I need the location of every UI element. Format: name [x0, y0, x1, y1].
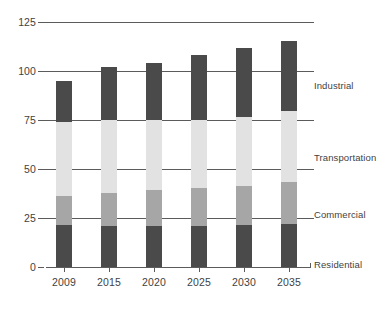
legend-label-industrial: Industrial	[314, 80, 354, 91]
y-tick-dash-75	[38, 120, 46, 121]
x-tick-2015	[109, 268, 110, 272]
bar-segment-residential	[281, 224, 297, 267]
bar-segment-industrial	[281, 41, 297, 111]
y-tick-dash-125	[38, 22, 46, 23]
bar-segment-transportation	[281, 111, 297, 182]
x-tick-2025	[199, 268, 200, 272]
gridline-75	[46, 120, 314, 121]
legend-label-transportation: Transportation	[314, 152, 376, 163]
legend-label-residential: Residential	[314, 259, 362, 270]
gridline-50	[46, 169, 314, 170]
y-tick-label-0: 0	[30, 262, 36, 272]
y-axis: 125 100 75 50 25 0	[0, 0, 36, 316]
bar-segment-industrial	[236, 48, 252, 117]
bar-segment-industrial	[56, 81, 72, 122]
bar-segment-residential	[56, 225, 72, 267]
gridline-125	[46, 22, 314, 23]
x-tick-2035	[289, 268, 290, 272]
bar-segment-industrial	[101, 67, 117, 120]
bar-segment-transportation	[191, 120, 207, 188]
stacked-bar-chart: 125 100 75 50 25 0	[0, 0, 390, 316]
x-axis-line	[46, 267, 311, 268]
bar-segment-transportation	[236, 117, 252, 186]
x-axis-label-2009: 2009	[42, 276, 86, 288]
bar-segment-commercial	[281, 182, 297, 224]
x-tick-2009	[64, 268, 65, 272]
y-tick-label-125: 125	[18, 17, 36, 27]
bar-segment-residential	[101, 226, 117, 267]
bar-segment-commercial	[236, 186, 252, 225]
gridline-25	[46, 218, 314, 219]
x-axis-label-2015: 2015	[87, 276, 131, 288]
y-tick-dash-50	[38, 169, 46, 170]
x-tick-2030	[244, 268, 245, 272]
x-axis-label-2020: 2020	[132, 276, 176, 288]
bar-segment-commercial	[146, 190, 162, 226]
bar-segment-transportation	[56, 122, 72, 196]
x-axis-label-2025: 2025	[177, 276, 221, 288]
bar-segment-residential	[236, 225, 252, 267]
bar-segment-residential	[146, 226, 162, 267]
x-axis-label-2030: 2030	[222, 276, 266, 288]
x-axis-end-cap	[310, 263, 311, 268]
gridline-100	[46, 71, 314, 72]
bar-segment-commercial	[191, 188, 207, 226]
y-tick-dash-100	[38, 71, 46, 72]
bar-segment-industrial	[191, 55, 207, 120]
y-tick-label-50: 50	[24, 164, 36, 174]
bar-segment-commercial	[101, 193, 117, 226]
bar-segment-transportation	[146, 120, 162, 190]
y-tick-label-75: 75	[24, 115, 36, 125]
y-tick-label-25: 25	[24, 213, 36, 223]
bar-segment-residential	[191, 226, 207, 267]
y-tick-dash-0	[38, 267, 44, 268]
plot-area: 2009 2015 2020 2025 2030 2035	[46, 0, 314, 316]
y-tick-label-100: 100	[18, 66, 36, 76]
x-axis-label-2035: 2035	[267, 276, 311, 288]
y-tick-dash-25	[38, 218, 46, 219]
legend-label-commercial: Commercial	[314, 209, 366, 220]
x-tick-2020	[154, 268, 155, 272]
bar-segment-commercial	[56, 196, 72, 225]
bar-segment-industrial	[146, 63, 162, 120]
bar-segment-transportation	[101, 120, 117, 193]
